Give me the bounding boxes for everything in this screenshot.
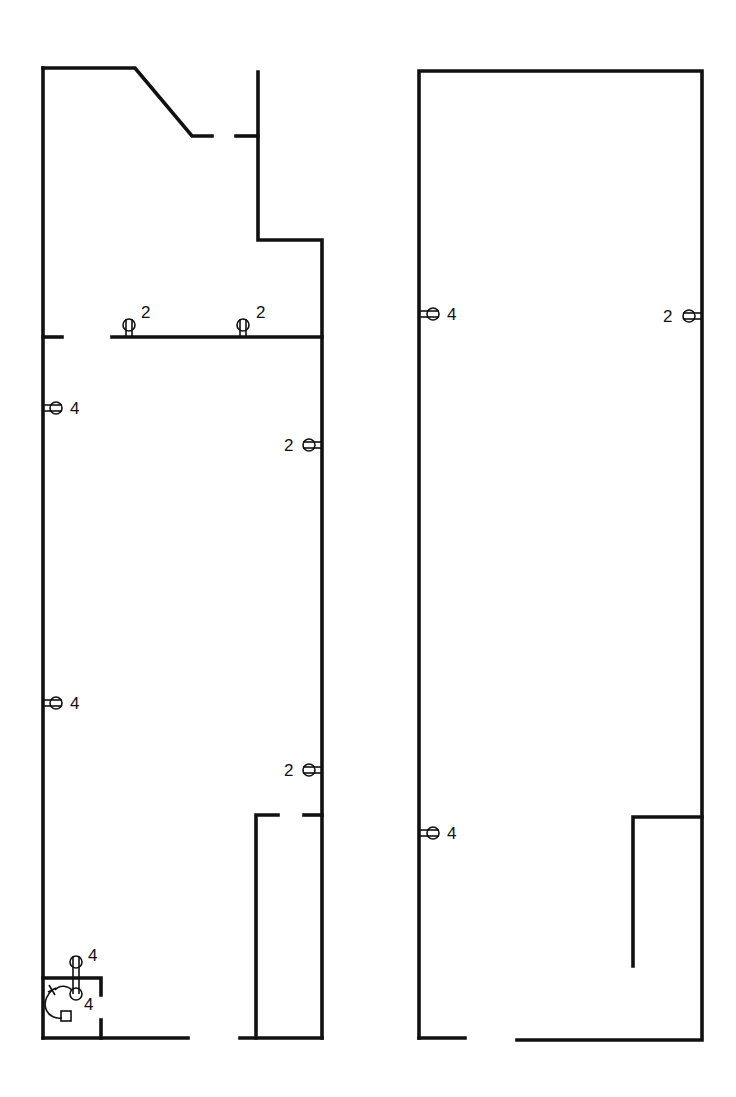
circuit-label: 4 (70, 694, 79, 713)
right-plan: 4 2 4 (419, 71, 702, 1040)
circuit-label: 4 (447, 305, 456, 324)
outlet-icon (43, 402, 62, 414)
circuit-label: 2 (284, 436, 293, 455)
circuit-label: 4 (447, 824, 456, 843)
right-plan-closet-wall (633, 817, 702, 966)
outlet-icon (683, 310, 702, 322)
circuit-label: 4 (84, 995, 93, 1014)
left-plan-top-wall (43, 68, 212, 136)
circuit-label: 4 (88, 946, 97, 965)
right-plan-outer-wall (419, 71, 702, 1040)
circuit-label: 2 (663, 307, 672, 326)
circuit-label: 2 (256, 303, 265, 322)
outlet-icon (419, 308, 439, 320)
circuit-label: 2 (141, 303, 150, 322)
left-plan-closet-wall (256, 815, 278, 1038)
outlet-icon (419, 827, 439, 839)
outlet-icon (43, 697, 62, 709)
switch-wire-icon (55, 986, 72, 990)
outlet-icon (303, 439, 322, 451)
circuit-label: 2 (284, 761, 293, 780)
left-plan-small-closet (43, 978, 101, 995)
outlet-icon (123, 319, 135, 337)
left-plan-upper-right-wall (258, 72, 322, 1038)
outlet-icon (237, 319, 249, 337)
outlet-icon (303, 764, 322, 776)
fixture-icon (61, 1011, 71, 1021)
floor-plan-diagram: 2 2 4 2 4 (0, 0, 736, 1097)
left-plan: 2 2 4 2 4 (43, 68, 322, 1038)
circuit-label: 4 (70, 399, 79, 418)
